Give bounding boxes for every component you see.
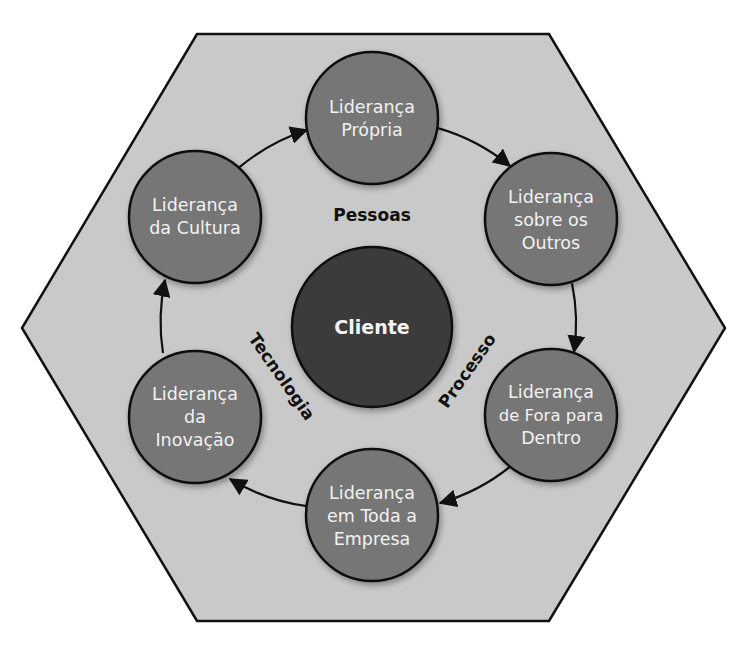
- leadership-diagram: Cliente Pessoas Tecnologia Processo Lide…: [0, 0, 750, 647]
- node-lideranca-propria: Liderança Própria: [306, 52, 438, 184]
- node-label-line: Empresa: [334, 529, 411, 549]
- dimension-label-pessoas: Pessoas: [333, 205, 411, 225]
- node-label-line: da Cultura: [149, 218, 240, 238]
- node-lideranca-sobre-os-outros: Liderança sobre os Outros: [485, 153, 617, 285]
- node-label-line: Liderança: [329, 97, 415, 117]
- node-label-line: Outros: [522, 233, 580, 253]
- node-label-line: de Fora para: [499, 406, 604, 425]
- node-lideranca-da-cultura: Liderança da Cultura: [129, 151, 261, 283]
- node-label-line: Dentro: [521, 428, 581, 448]
- node-label-line: sobre os: [514, 210, 588, 230]
- node-label-line: Liderança: [152, 195, 238, 215]
- center-label: Cliente: [334, 316, 409, 338]
- node-label-line: Própria: [341, 120, 403, 140]
- node-label-line: Liderança: [508, 382, 594, 402]
- node-lideranca-de-fora-para-dentro: Liderança de Fora para Dentro: [485, 349, 617, 481]
- node-label-line: Inovação: [155, 430, 234, 450]
- node-lideranca-da-inovacao: Liderança da Inovação: [129, 351, 261, 483]
- node-label-line: em Toda a: [327, 506, 417, 526]
- node-label-line: Liderança: [329, 483, 415, 503]
- node-lideranca-em-toda-a-empresa: Liderança em Toda a Empresa: [306, 449, 438, 581]
- node-label-line: Liderança: [152, 384, 238, 404]
- node-label-line: Liderança: [508, 187, 594, 207]
- node-label-line: da: [184, 407, 206, 427]
